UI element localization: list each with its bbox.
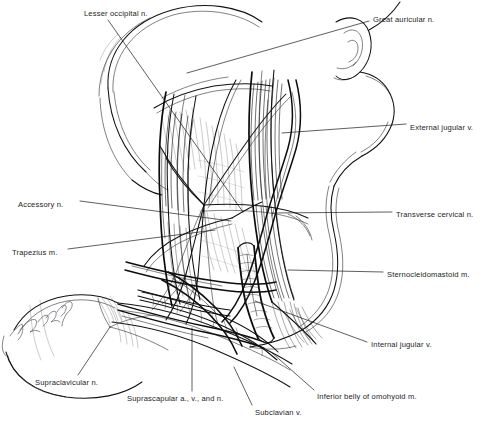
label-accessory-n: Accessory n. bbox=[18, 200, 63, 209]
anatomical-illustration: Lesser occipital n. Great auricular n. E… bbox=[0, 0, 484, 421]
figure-canvas: Lesser occipital n. Great auricular n. E… bbox=[0, 0, 484, 421]
label-supraclavicular-n: Supraclavicular n. bbox=[35, 378, 98, 387]
label-external-jugular-v: External jugular v. bbox=[410, 123, 473, 132]
label-inferior-belly-omohyoid-m: Inferior belly of omohyoid m. bbox=[317, 392, 417, 401]
label-subclavian-v: Subclavian v. bbox=[255, 408, 302, 417]
label-trapezius-m: Trapezius m. bbox=[12, 248, 57, 257]
label-suprascapular-a-v-n: Suprascapular a., v., and n. bbox=[127, 394, 224, 403]
label-sternocleidomastoid-m: Sternocleidomastoid m. bbox=[387, 270, 470, 279]
label-lesser-occipital-n: Lesser occipital n. bbox=[84, 9, 148, 18]
label-great-auricular-n: Great auricular n. bbox=[373, 15, 434, 24]
label-internal-jugular-v: Internal jugular v. bbox=[371, 340, 432, 349]
label-transverse-cervical-n: Transverse cervical n. bbox=[396, 210, 473, 219]
